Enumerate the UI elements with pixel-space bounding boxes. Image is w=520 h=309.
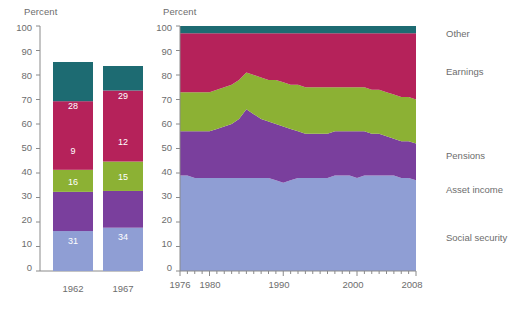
area-xtick-1980: 1980: [196, 279, 224, 290]
area-xtick-2008: 2008: [398, 279, 426, 290]
right-xaxis-ticks: [180, 271, 416, 276]
legend-item-earnings: Earnings: [446, 66, 484, 77]
right-panel-svg: [0, 0, 520, 290]
area-xtick-1990: 1990: [265, 279, 293, 290]
area-band-social-security: [180, 175, 416, 271]
area-band-other: [180, 26, 416, 33]
legend-item-pensions: Pensions: [446, 150, 485, 161]
chart-root: Percent 100 90 80 70 60 50 40 30 20 10 0: [0, 0, 520, 309]
legend-item-other: Other: [446, 28, 470, 39]
legend-item-asset-income: Asset income: [446, 184, 503, 195]
area-xtick-1976: 1976: [166, 279, 194, 290]
area-xtick-2000: 2000: [339, 279, 367, 290]
area-stack-group: [180, 26, 416, 271]
legend-item-social-security: Social security: [446, 232, 507, 243]
